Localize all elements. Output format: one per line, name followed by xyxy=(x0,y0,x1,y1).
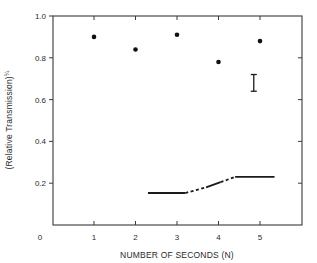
y-tick-label: 0.8 xyxy=(35,54,47,63)
data-point xyxy=(258,39,263,44)
x-axis-title: NUMBER OF SECONDS (N) xyxy=(120,250,234,260)
data-point xyxy=(175,33,180,38)
x-tick-label: 3 xyxy=(175,233,180,242)
error-bar-icon xyxy=(251,75,257,92)
x-axis-ticks: 12345 xyxy=(92,16,263,242)
y-tick-label: 1.0 xyxy=(35,12,47,21)
dashed-segment xyxy=(221,177,236,182)
y-axis-title-text: (Relative Transmission) xyxy=(4,76,14,169)
y-axis-title: (Relative Transmission)¼ xyxy=(3,70,14,169)
x-tick-label: 1 xyxy=(92,233,97,242)
chart: 0.20.40.60.81.0 12345 0 NUMBER OF SECOND… xyxy=(0,0,317,263)
solid-segment xyxy=(206,182,221,187)
data-point xyxy=(92,35,97,40)
y-tick-label: 0.4 xyxy=(35,137,47,146)
data-point xyxy=(133,47,138,52)
data-points xyxy=(92,33,263,65)
baseline-curve xyxy=(148,177,275,193)
x-tick-label: 4 xyxy=(216,233,221,242)
dashed-segment xyxy=(185,187,206,193)
y-tick-label: 0.6 xyxy=(35,96,47,105)
y-axis-title-superscript: ¼ xyxy=(3,70,10,76)
y-tick-label: 0.2 xyxy=(35,179,47,188)
x-tick-label: 2 xyxy=(133,233,138,242)
y-axis-ticks: 0.20.40.60.81.0 xyxy=(35,12,302,188)
x-origin-label: 0 xyxy=(38,233,43,242)
data-point xyxy=(216,60,221,65)
x-tick-label: 5 xyxy=(258,233,263,242)
